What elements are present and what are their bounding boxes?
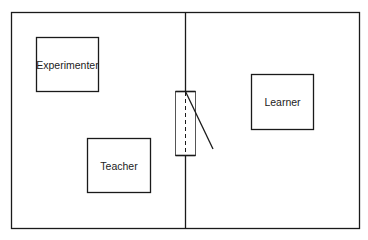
teacher-label: Teacher — [87, 138, 151, 193]
learner-label: Learner — [251, 74, 314, 130]
door-swing — [186, 92, 214, 150]
door — [176, 92, 214, 156]
experimenter-label: Experimenter — [36, 37, 99, 92]
